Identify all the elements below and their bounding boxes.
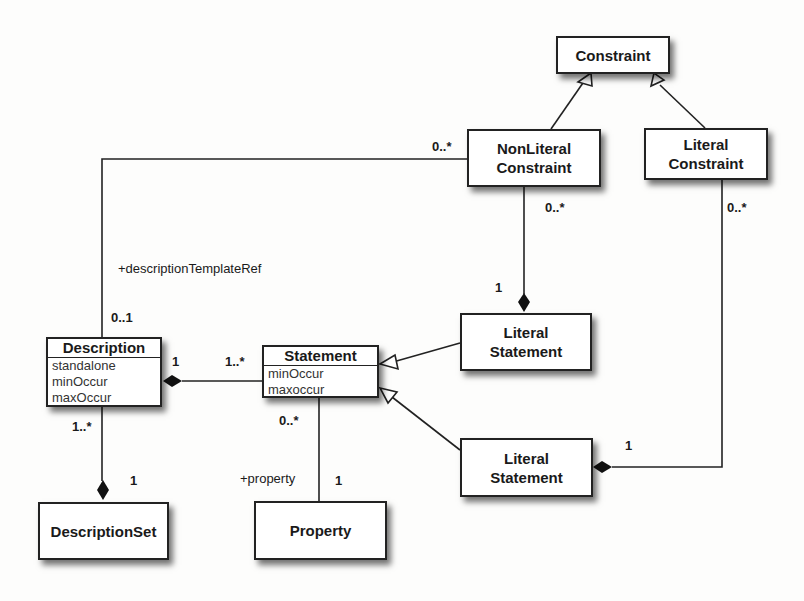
multiplicity-label: 1 [625, 438, 632, 453]
multiplicity-label: 1 [495, 280, 502, 295]
class-nonliteral-constraint: NonLiteral Constraint [467, 129, 601, 187]
multiplicity-label: 0..* [432, 139, 452, 154]
role-label: +property [240, 471, 295, 486]
class-name-line2: Constraint [669, 154, 744, 173]
class-description: Description standalone minOccur maxOccur [46, 337, 162, 407]
role-label: +descriptionTemplateRef [118, 261, 261, 276]
class-constraint-name: Constraint [576, 46, 651, 65]
multiplicity-label: 1..* [72, 419, 92, 434]
class-name-line1: Literal [504, 449, 549, 468]
class-description-set-name: DescriptionSet [51, 522, 157, 541]
multiplicity-label: 0..* [727, 200, 747, 215]
attribute-minoccur: minOccur [264, 366, 377, 382]
class-literal-statement-upper: Literal Statement [460, 313, 592, 371]
class-name-line2: Statement [490, 468, 563, 487]
class-property: Property [254, 501, 387, 560]
class-description-name: Description [48, 339, 160, 358]
class-constraint: Constraint [556, 36, 670, 74]
multiplicity-label: 0..* [279, 413, 299, 428]
attribute-minoccur: minOccur [48, 374, 160, 390]
attribute-maxoccur: maxoccur [264, 382, 377, 398]
class-name-line1: Literal [683, 135, 728, 154]
class-property-name: Property [290, 521, 352, 540]
class-statement: Statement minOccur maxoccur [262, 345, 379, 398]
attribute-standalone: standalone [48, 358, 160, 374]
class-literal-constraint: Literal Constraint [644, 128, 768, 180]
class-description-set: DescriptionSet [38, 502, 169, 560]
attribute-maxoccur: maxOccur [48, 390, 160, 406]
class-statement-name: Statement [264, 347, 377, 366]
class-literal-statement-lower: Literal Statement [460, 438, 593, 497]
class-name-line1: NonLiteral [497, 139, 571, 158]
class-name-line2: Constraint [497, 158, 572, 177]
class-name-line2: Statement [490, 342, 563, 361]
multiplicity-label: 1 [172, 354, 179, 369]
multiplicity-label: 0..1 [111, 310, 133, 325]
multiplicity-label: 1..* [225, 354, 245, 369]
multiplicity-label: 1 [130, 473, 137, 488]
multiplicity-label: 0..* [545, 200, 565, 215]
multiplicity-label: 1 [335, 473, 342, 488]
class-name-line1: Literal [503, 323, 548, 342]
